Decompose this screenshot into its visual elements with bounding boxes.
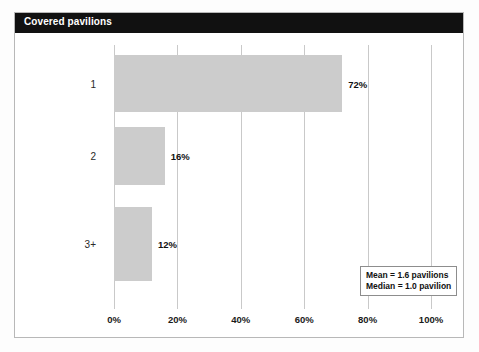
category-label-3+: 3+ xyxy=(85,239,96,250)
stats-annotation-box: Mean = 1.6 pavilions Median = 1.0 pavili… xyxy=(360,266,457,296)
chart-card: Covered pavilions 123+ 72%16%12% 0%20%40… xyxy=(14,12,464,338)
x-axis-tick-label: 60% xyxy=(295,314,314,325)
x-axis-tick-label: 80% xyxy=(358,314,377,325)
bar-2 xyxy=(114,127,165,185)
x-axis-tick-label: 100% xyxy=(419,314,443,325)
category-label-1: 1 xyxy=(90,78,96,89)
chart-title-bar: Covered pavilions xyxy=(15,13,463,33)
stats-median: Median = 1.0 pavilion xyxy=(366,281,451,292)
x-axis-tick-label: 20% xyxy=(168,314,187,325)
page-background: Covered pavilions 123+ 72%16%12% 0%20%40… xyxy=(0,0,479,352)
value-label-3+: 12% xyxy=(158,239,177,250)
value-label-2: 16% xyxy=(171,151,190,162)
chart-plot-area: 123+ 72%16%12% 0%20%40%60%80%100% Mean =… xyxy=(15,33,463,337)
x-axis-tick-label: 40% xyxy=(231,314,250,325)
category-label-2: 2 xyxy=(90,151,96,162)
value-label-1: 72% xyxy=(348,78,367,89)
x-axis-tick-label: 0% xyxy=(107,314,121,325)
stats-mean: Mean = 1.6 pavilions xyxy=(366,270,451,281)
page-title: Covered pavilions xyxy=(24,16,112,27)
bar-3+ xyxy=(114,207,152,281)
bar-1 xyxy=(114,55,342,112)
